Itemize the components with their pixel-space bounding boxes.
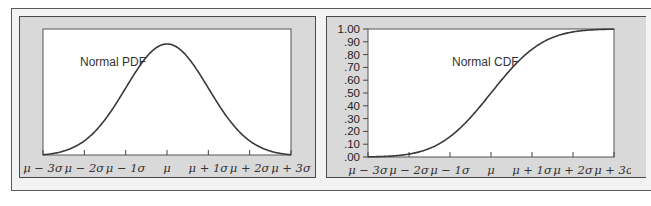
cdf-y-tick-label: .70: [344, 61, 360, 73]
pdf-x-tick-label: μ + 1σ: [189, 161, 230, 175]
cdf-y-tick-label: .50: [344, 87, 360, 99]
pdf-plot-area: [43, 29, 291, 155]
cdf-x-tick-label: μ + 1σ: [512, 163, 553, 177]
pdf-x-tick-label: μ + 3σ: [271, 161, 312, 175]
pdf-x-tick-label: μ: [163, 161, 170, 175]
pdf-x-tick-label: μ − 2σ: [65, 161, 106, 175]
cdf-x-tick-label: μ: [487, 163, 494, 177]
cdf-y-tick-label: .20: [344, 125, 360, 137]
pdf-x-tick-label: μ + 2σ: [230, 161, 271, 175]
cdf-x-tick-label: μ + 2σ: [553, 163, 594, 177]
cdf-annotation: Normal CDF: [452, 55, 519, 69]
cdf-y-tick-label: .30: [344, 113, 360, 125]
cdf-y-tick-label: .60: [344, 74, 360, 86]
cdf-x-tick-label: μ − 2σ: [389, 163, 430, 177]
cdf-y-tick-label: .00: [344, 151, 360, 163]
pdf-x-tick-label: μ − 3σ: [23, 161, 64, 175]
cdf-y-tick-label: 1.00: [338, 23, 360, 35]
cdf-y-tick-label: .40: [344, 100, 360, 112]
cdf-x-tick-label: μ − 1σ: [430, 163, 471, 177]
cdf-y-tick-label: .90: [344, 36, 360, 48]
cdf-x-tick-label: μ − 3σ: [348, 163, 389, 177]
pdf-x-tick-label: μ − 1σ: [106, 161, 147, 175]
pdf-annotation: Normal PDF: [80, 55, 146, 69]
cdf-y-tick-label: .10: [344, 138, 360, 150]
cdf-y-tick-label: .80: [344, 49, 360, 61]
cdf-x-tick-label: μ + 3σ: [594, 163, 631, 177]
